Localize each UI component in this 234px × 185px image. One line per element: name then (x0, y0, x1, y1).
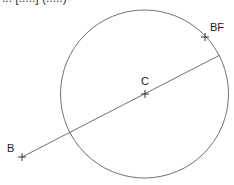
label-c: C (141, 75, 149, 87)
point-c-marker (141, 90, 149, 98)
point-bf-marker (201, 33, 209, 41)
line-b-c (22, 55, 220, 157)
point-b-marker (18, 153, 26, 161)
label-b: B (7, 142, 14, 154)
geometry-diagram: B C BF (0, 0, 234, 185)
label-bf: BF (210, 21, 224, 33)
